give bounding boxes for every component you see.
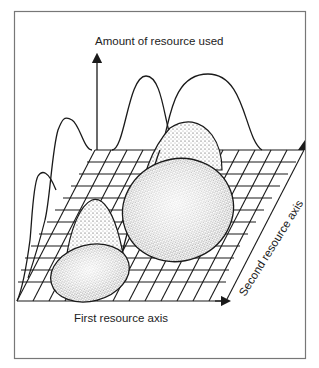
- second-axis-arrowhead: [298, 140, 305, 150]
- niche-overlap-diagram: Amount of resource used: [0, 0, 319, 368]
- first-resource-axis-label: First resource axis: [74, 312, 168, 324]
- vertical-axis-label: Amount of resource used: [95, 35, 224, 47]
